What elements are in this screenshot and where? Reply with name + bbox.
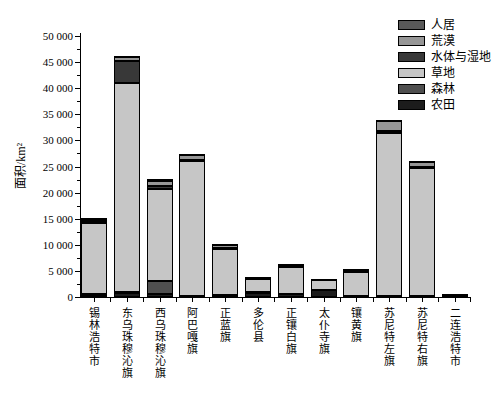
legend-label: 荒漠 xyxy=(431,35,455,47)
y-tick-label: 10 000 xyxy=(27,240,73,251)
bar-segment-水体与湿地 xyxy=(147,186,173,189)
x-tick xyxy=(192,298,193,302)
y-major-tick xyxy=(75,167,80,168)
y-tick-label: 5 000 xyxy=(27,266,73,277)
y-minor-tick xyxy=(77,284,80,285)
y-tick-label: 25 000 xyxy=(27,162,73,173)
legend-swatch-水体与湿地 xyxy=(398,52,425,62)
x-tick xyxy=(94,298,95,302)
bar-segment-森林 xyxy=(81,294,107,296)
legend-item: 草地 xyxy=(398,65,491,80)
bar-segment-草地 xyxy=(179,161,205,296)
bar-segment-草地 xyxy=(311,280,337,290)
legend-swatch-荒漠 xyxy=(398,36,425,46)
bar-segment-草地 xyxy=(81,223,107,294)
x-category-label: 锡林浩特市 xyxy=(87,307,101,367)
y-minor-tick xyxy=(77,49,80,50)
y-tick-label: 40 000 xyxy=(27,83,73,94)
x-tick xyxy=(324,298,325,302)
x-tick xyxy=(422,298,423,302)
legend-item: 人居 xyxy=(398,17,491,32)
legend-item: 荒漠 xyxy=(398,33,491,48)
bar-segment-水体与湿地 xyxy=(409,167,435,169)
y-major-tick xyxy=(75,62,80,63)
x-tick xyxy=(455,298,456,302)
x-category-label: 多伦县 xyxy=(251,307,265,343)
legend-item: 水体与湿地 xyxy=(398,49,491,64)
bar-segment-水体与湿地 xyxy=(114,61,140,83)
bar-segment-草地 xyxy=(212,249,238,295)
x-category-label: 二连浩特市 xyxy=(448,307,462,367)
y-tick-label: 50 000 xyxy=(27,31,73,42)
bar-segment-人居 xyxy=(311,279,337,281)
bar-segment-人居 xyxy=(212,244,238,246)
x-category-label: 太仆寺旗 xyxy=(317,307,331,355)
bar-segment-草地 xyxy=(376,133,402,296)
x-tick xyxy=(143,298,144,302)
y-tick-label: 45 000 xyxy=(27,57,73,68)
legend-label: 森林 xyxy=(431,83,455,95)
x-category-label: 正镶白旗 xyxy=(284,307,298,355)
bar-segment-人居 xyxy=(343,269,369,271)
x-tick xyxy=(258,298,259,302)
bar-segment-水体与湿地 xyxy=(81,222,107,224)
y-major-tick xyxy=(75,219,80,220)
x-tick xyxy=(438,298,439,302)
bar-segment-水体与湿地 xyxy=(179,160,205,162)
y-minor-tick xyxy=(77,153,80,154)
bar-segment-荒漠 xyxy=(147,181,173,186)
bar-segment-森林 xyxy=(114,292,140,294)
bar-segment-草地 xyxy=(343,272,369,296)
bar-segment-草地 xyxy=(147,189,173,281)
x-tick xyxy=(356,298,357,302)
bar-segment-人居 xyxy=(147,179,173,181)
bar-segment-荒漠 xyxy=(376,121,402,131)
bar-segment-人居 xyxy=(179,154,205,156)
y-tick-label: 20 000 xyxy=(27,188,73,199)
y-major-tick xyxy=(75,140,80,141)
legend-label: 人居 xyxy=(431,19,455,31)
legend-swatch-草地 xyxy=(398,68,425,78)
x-tick xyxy=(373,298,374,302)
y-minor-tick xyxy=(77,258,80,259)
bar-segment-森林 xyxy=(147,281,173,294)
y-minor-tick xyxy=(77,180,80,181)
x-tick xyxy=(406,298,407,302)
bar-segment-水体与湿地 xyxy=(212,248,238,250)
x-category-label: 苏尼特右旗 xyxy=(415,307,429,367)
y-major-tick xyxy=(75,88,80,89)
y-minor-tick xyxy=(77,127,80,128)
y-tick-label: 30 000 xyxy=(27,135,73,146)
x-tick xyxy=(291,298,292,302)
bar-segment-人居 xyxy=(114,56,140,58)
y-tick-label: 35 000 xyxy=(27,109,73,120)
legend-label: 草地 xyxy=(431,67,455,79)
x-category-label: 东乌珠穆沁旗 xyxy=(120,307,134,379)
bar-segment-森林 xyxy=(245,292,271,294)
y-minor-tick xyxy=(77,101,80,102)
bar-segment-水体与湿地 xyxy=(376,131,402,133)
bar-segment-人居 xyxy=(278,264,304,266)
x-tick xyxy=(110,298,111,302)
x-tick xyxy=(127,298,128,302)
bar-segment-人居 xyxy=(245,277,271,279)
bar-segment-农田 xyxy=(278,294,304,297)
y-minor-tick xyxy=(77,75,80,76)
x-tick xyxy=(160,298,161,302)
bar-segment-人居 xyxy=(376,120,402,122)
x-category-label: 正蓝旗 xyxy=(218,307,232,343)
bar-segment-人居 xyxy=(81,218,107,220)
legend-swatch-人居 xyxy=(398,20,425,30)
bar-segment-人居 xyxy=(442,294,468,296)
bar-segment-荒漠 xyxy=(81,220,107,222)
legend-swatch-森林 xyxy=(398,84,425,94)
y-minor-tick xyxy=(77,232,80,233)
y-major-tick xyxy=(75,114,80,115)
legend-label: 水体与湿地 xyxy=(431,51,491,63)
bar-segment-农田 xyxy=(212,295,238,297)
x-tick xyxy=(470,298,471,302)
stacked-bar-chart: 面积/km² 05 00010 00015 00020 00025 00030 … xyxy=(0,0,501,409)
x-tick xyxy=(307,298,308,302)
bar-segment-人居 xyxy=(409,161,435,163)
x-tick xyxy=(340,298,341,302)
